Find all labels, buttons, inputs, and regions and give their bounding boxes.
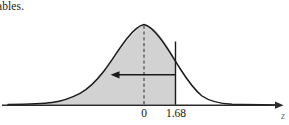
tick-label-zero: 0 xyxy=(138,107,150,119)
tick-label-critical-value: 1.68 xyxy=(161,107,191,119)
axis-variable-label: z xyxy=(281,110,285,121)
shaded-area-left-of-critical-value xyxy=(8,25,176,105)
figure-container: ables. 0 1.68 z xyxy=(0,0,289,125)
